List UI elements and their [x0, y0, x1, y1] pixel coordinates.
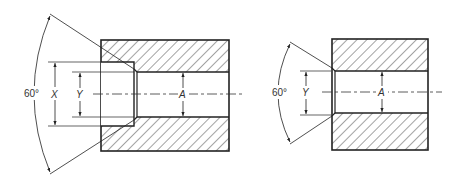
right-section-view: 60° Y A — [270, 39, 442, 150]
left-section-view: 60° X Y A — [22, 14, 243, 174]
drawing-canvas: 60° X Y A 60° — [0, 0, 462, 183]
left-x-label: X — [50, 89, 58, 100]
right-angle-label: 60° — [272, 87, 287, 98]
right-material-bottom — [332, 113, 428, 150]
right-a-label: A — [377, 87, 385, 98]
left-angle-label: 60° — [24, 88, 39, 99]
left-a-label: A — [178, 89, 186, 100]
right-material-top — [332, 39, 428, 71]
